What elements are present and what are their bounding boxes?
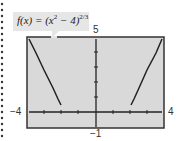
ymax-label: 5	[93, 24, 99, 35]
xmin-label: −4	[10, 106, 21, 117]
xmax-label: 4	[168, 106, 174, 117]
ymin-label: −1	[90, 128, 101, 139]
function-label: f(x) = (x2 − 4)2/3	[17, 13, 88, 26]
